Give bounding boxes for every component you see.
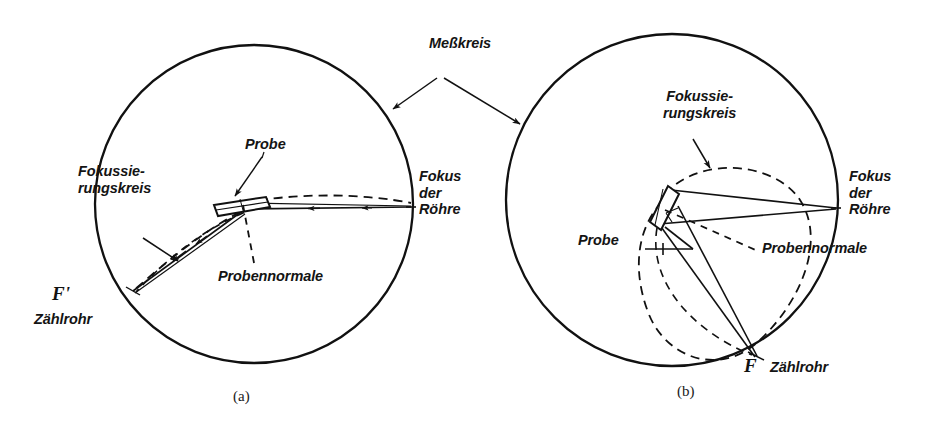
leader-probe-a [235,157,262,196]
label-tube-focus-a: Fokus der Röhre [419,168,461,218]
label-counter-tube-a: Zählrohr [34,311,92,328]
incident-beam-a-edge [252,203,411,206]
messkreis-leaders [393,78,520,124]
leader-focusing-circle-b [693,139,710,168]
label-focusing-circle-a: Fokussie- rungskreis [78,163,151,196]
diffracted-beam-b-right [678,206,757,356]
incident-beam-b-top [671,190,836,208]
label-focus-point-a: F' [52,283,70,305]
label-focusing-circle-b: Fokussie- rungskreis [663,88,736,121]
diagram-canvas [0,0,936,447]
label-counter-tube-b: Zählrohr [770,359,828,376]
focusing-chord-b [656,228,752,355]
label-messkreis: Meßkreis [429,35,491,52]
leader-probe-a-dash [262,152,264,158]
panel-a-graphics [95,45,416,363]
label-sample-normal-b: Probennormale [762,240,867,257]
caption-panel-b: (b) [677,383,695,400]
incident-beam-a [250,207,411,209]
leader-messkreis-left [393,78,437,109]
focusing-circle-a-upper [244,195,411,203]
leader-focusing-circle-a [143,238,178,261]
panel-b-graphics [506,34,841,366]
label-tube-focus-b: Fokus der Röhre [849,168,891,218]
figure-container: Meßkreis Fokussie- rungskreis Probe Prob… [0,0,936,447]
caption-panel-a: (a) [233,388,250,405]
label-focus-point-b: F [744,355,757,377]
label-sample-b: Probe [578,232,619,249]
leader-messkreis-right [444,78,520,124]
label-sample-a: Probe [245,136,286,153]
label-sample-normal-a: Probennormale [218,268,323,285]
